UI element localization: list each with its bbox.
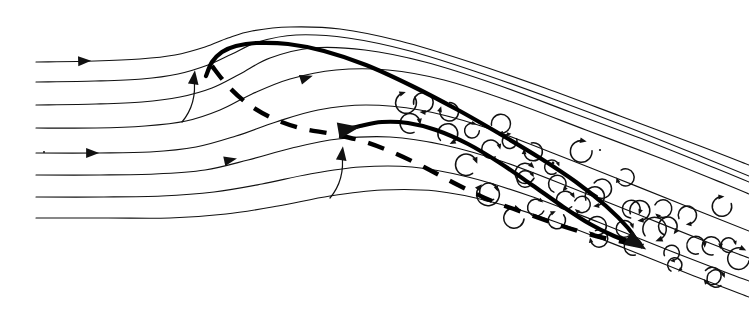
ink-speck-2 — [599, 149, 601, 151]
flow-separation-figure — [0, 0, 749, 314]
canvas-background — [0, 0, 749, 314]
ink-speck-3 — [43, 151, 45, 153]
ink-speck-1 — [552, 162, 555, 165]
flow-diagram-canvas — [0, 0, 749, 314]
